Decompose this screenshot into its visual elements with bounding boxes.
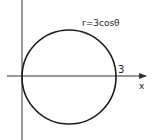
tick-label-3: 3 [118, 64, 124, 75]
polar-curve-circle [22, 30, 116, 124]
curve-label: r=3cosθ [82, 18, 120, 28]
polar-plot: r=3cosθ 3 x [0, 0, 157, 140]
x-axis-label: x [139, 81, 145, 91]
